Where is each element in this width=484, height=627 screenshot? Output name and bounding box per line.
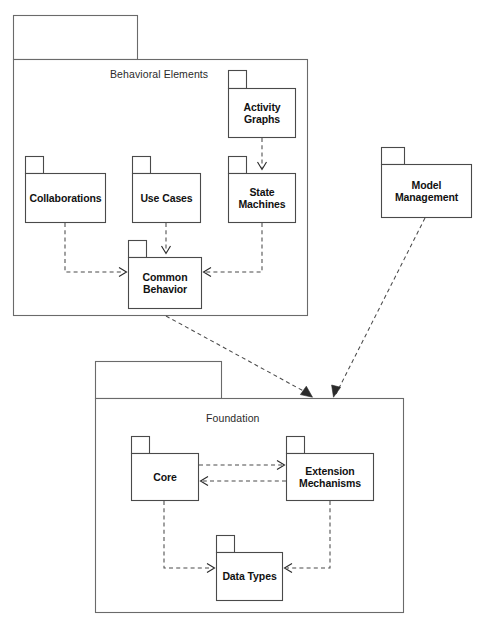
package-tab-common-behavior [129, 241, 147, 258]
package-label-data-types: Data Types [217, 553, 282, 600]
package-tab-foundation [96, 362, 222, 399]
package-label-activity-graphs: Activity Graphs [229, 89, 295, 137]
package-label-model-management: Model Management [382, 165, 471, 217]
package-label-use-cases: Use Cases [133, 174, 200, 222]
package-label-state-machines: State Machines [229, 174, 295, 222]
package-tab-extension-mechanisms [287, 437, 305, 454]
package-label-behavioral-elements: Behavioral Elements [110, 68, 208, 80]
package-label-collaborations: Collaborations [26, 174, 105, 222]
package-tab-model-management [382, 148, 405, 165]
package-label-common-behavior: Common Behavior [129, 258, 201, 308]
dependency-model-management-to-foundation [332, 218, 425, 397]
package-tab-state-machines [229, 157, 247, 174]
package-tab-collaborations [26, 157, 44, 174]
package-tab-core [132, 437, 150, 454]
package-label-extension-mechanisms: Extension Mechanisms [287, 454, 373, 500]
package-label-foundation: Foundation [206, 412, 260, 424]
package-tab-data-types [217, 536, 235, 553]
package-tab-behavioral-elements [14, 16, 138, 60]
package-label-core: Core [132, 454, 198, 500]
uml-package-diagram: Behavioral Elements Activity Graphs Coll… [0, 0, 484, 627]
package-tab-activity-graphs [229, 71, 247, 89]
package-tab-use-cases [133, 157, 151, 174]
